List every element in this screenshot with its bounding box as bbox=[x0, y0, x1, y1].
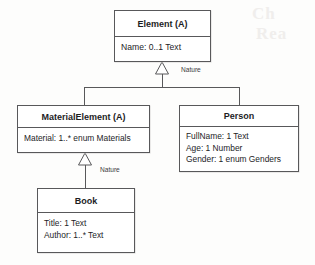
uml-class-element[interactable]: Element (A) Name: 0..1 Text bbox=[114, 10, 211, 62]
class-name-materialelement: MaterialElement (A) bbox=[18, 106, 149, 128]
attribute-row: Gender: 1 enum Genders bbox=[186, 154, 293, 166]
uml-class-diagram-canvas: Ch Rea Element (A) Name: 0..1 Text Mater… bbox=[0, 0, 315, 265]
attribute-row: FullName: 1 Text bbox=[186, 131, 293, 143]
class-attributes-person: FullName: 1 Text Age: 1 Number Gender: 1… bbox=[180, 127, 298, 169]
class-name-book: Book bbox=[38, 189, 134, 213]
attribute-row: Age: 1 Number bbox=[186, 143, 293, 155]
uml-class-materialelement[interactable]: MaterialElement (A) Material: 1..* enum … bbox=[17, 105, 150, 153]
attribute-row: Title: 1 Text bbox=[44, 218, 129, 230]
class-name-element: Element (A) bbox=[115, 11, 210, 37]
class-name-person: Person bbox=[180, 106, 298, 127]
class-attributes-element: Name: 0..1 Text bbox=[115, 37, 210, 57]
generalization-arrowhead-materialelement bbox=[79, 153, 92, 165]
uml-class-person[interactable]: Person FullName: 1 Text Age: 1 Number Ge… bbox=[179, 105, 299, 172]
attribute-row: Author: 1..* Text bbox=[44, 230, 129, 242]
relationship-label-nature-2: Nature bbox=[100, 166, 120, 173]
class-attributes-materialelement: Material: 1..* enum Materials bbox=[18, 128, 149, 148]
class-attributes-book: Title: 1 Text Author: 1..* Text bbox=[38, 213, 134, 244]
attribute-row: Material: 1..* enum Materials bbox=[24, 133, 144, 145]
uml-class-book[interactable]: Book Title: 1 Text Author: 1..* Text bbox=[37, 188, 135, 253]
attribute-row: Name: 0..1 Text bbox=[121, 42, 205, 54]
generalization-arrowhead-element bbox=[156, 62, 169, 74]
relationship-label-nature-1: Nature bbox=[181, 66, 201, 73]
